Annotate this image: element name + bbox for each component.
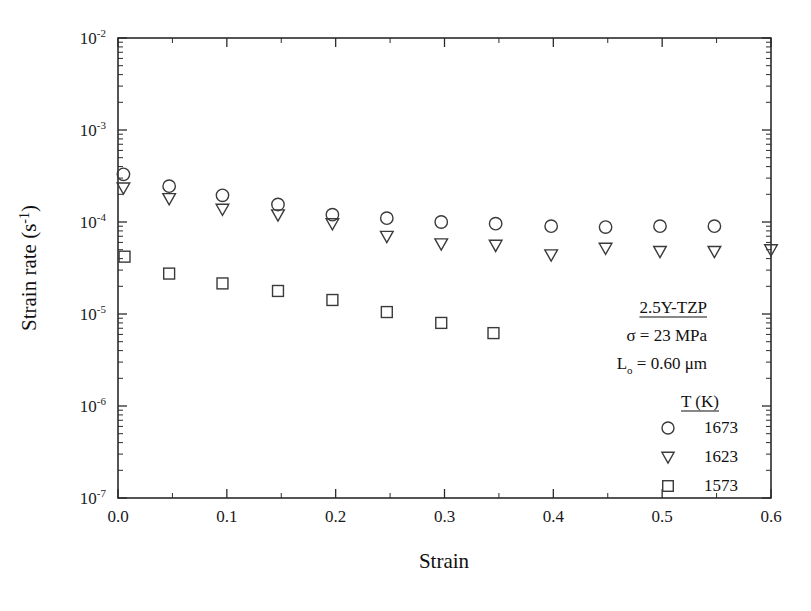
x-tick-label: 0.5 xyxy=(652,507,673,526)
marker-square xyxy=(164,268,175,279)
chart-svg: 0.00.10.20.30.40.50.6 10-210-310-410-510… xyxy=(0,0,811,611)
marker-circle xyxy=(545,220,557,232)
legend-entries: 167316231573 xyxy=(662,418,738,495)
marker-circle xyxy=(599,221,611,233)
marker-circle xyxy=(117,168,129,180)
series-1573 xyxy=(119,251,499,338)
legend-label-1673: 1673 xyxy=(704,418,738,437)
annotation-grain-size: Lo = 0.60 μm xyxy=(617,354,707,376)
y-tick-label: 10-2 xyxy=(80,27,106,48)
marker-circle xyxy=(708,220,720,232)
marker-circle xyxy=(435,216,447,228)
y-axis-minor-ticks xyxy=(118,42,771,470)
x-tick-label: 0.4 xyxy=(543,507,565,526)
x-tick-label: 0.2 xyxy=(325,507,346,526)
legend-marker-1623 xyxy=(662,452,674,463)
marker-triangle-down xyxy=(435,239,448,250)
y-axis-title: Strain rate (s-1) xyxy=(17,205,41,331)
marker-circle xyxy=(216,189,228,201)
marker-square xyxy=(436,317,447,328)
marker-triangle-down xyxy=(489,240,502,251)
legend-marker-1673 xyxy=(662,422,674,434)
marker-triangle-down xyxy=(216,204,229,215)
y-tick-label: 10-7 xyxy=(80,487,107,508)
legend-marker-1573 xyxy=(663,481,674,492)
y-tick-label: 10-5 xyxy=(80,303,107,324)
y-axis-major-ticks xyxy=(118,38,771,498)
plot-frame xyxy=(118,38,771,498)
x-axis-major-ticks xyxy=(118,38,771,498)
marker-triangle-down xyxy=(380,231,393,242)
x-axis-title: Strain xyxy=(419,549,470,573)
marker-circle xyxy=(489,217,501,229)
marker-circle xyxy=(163,180,175,192)
annotation-material: 2.5Y-TZP xyxy=(639,298,707,317)
marker-square xyxy=(381,307,392,318)
marker-triangle-down xyxy=(708,246,721,257)
legend: T (K) 167316231573 xyxy=(662,392,738,495)
marker-triangle-down xyxy=(654,246,667,257)
x-tick-label: 0.0 xyxy=(107,507,128,526)
y-axis-title-group: Strain rate (s-1) xyxy=(17,205,41,331)
annotation-block: 2.5Y-TZP σ = 23 MPa Lo = 0.60 μm xyxy=(617,298,708,376)
marker-square xyxy=(273,286,284,297)
marker-square xyxy=(488,328,499,339)
annotation-stress: σ = 23 MPa xyxy=(626,326,707,345)
marker-triangle-down xyxy=(272,210,285,221)
x-axis-tick-labels: 0.00.10.20.30.40.50.6 xyxy=(107,507,781,526)
marker-circle xyxy=(272,198,284,210)
y-tick-label: 10-6 xyxy=(80,395,107,416)
marker-circle xyxy=(381,212,393,224)
legend-label-1573: 1573 xyxy=(704,476,738,495)
marker-square xyxy=(217,278,228,289)
marker-triangle-down xyxy=(163,194,176,205)
series-1673 xyxy=(117,168,720,233)
marker-triangle-down xyxy=(599,243,612,254)
x-tick-label: 0.3 xyxy=(434,507,455,526)
marker-triangle-down xyxy=(117,183,130,194)
legend-header: T (K) xyxy=(681,392,719,411)
marker-triangle-down xyxy=(545,250,558,261)
x-axis-minor-ticks xyxy=(172,38,716,498)
x-tick-label: 0.6 xyxy=(760,507,781,526)
y-tick-label: 10-3 xyxy=(80,119,107,140)
marker-square xyxy=(327,295,338,306)
x-tick-label: 0.1 xyxy=(216,507,237,526)
y-axis-tick-labels: 10-210-310-410-510-610-7 xyxy=(80,27,107,508)
chart-figure: 0.00.10.20.30.40.50.6 10-210-310-410-510… xyxy=(0,0,811,611)
marker-square xyxy=(119,251,130,262)
y-tick-label: 10-4 xyxy=(80,211,107,232)
marker-circle xyxy=(654,220,666,232)
legend-label-1623: 1623 xyxy=(704,447,738,466)
